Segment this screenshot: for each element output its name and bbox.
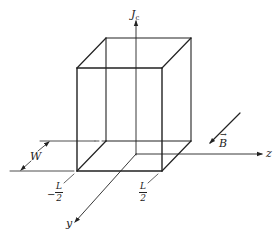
b-field-label: → B [219, 138, 227, 149]
z-axis-label: z [266, 148, 272, 159]
diagram-canvas: Jc z y → B W − L 2 L 2 [0, 0, 279, 233]
neg-l-over-2: L 2 [55, 182, 63, 203]
box-depth-edges [77, 38, 191, 171]
box-front-face [77, 68, 162, 171]
width-label: W [30, 151, 41, 162]
neg-l2-numerator: L [55, 182, 63, 193]
jc-axis-label: Jc [131, 9, 139, 22]
neg-l2-leader [64, 174, 74, 183]
pos-l2-leader [148, 174, 158, 183]
pos-l2-numerator: L [139, 182, 147, 193]
box-back-face [106, 38, 191, 141]
y-axis-label: y [66, 218, 72, 229]
jc-subscript: c [135, 14, 139, 22]
vector-arrow-icon: → [220, 131, 227, 139]
pos-l-over-2: L 2 [139, 182, 147, 203]
neg-l2-denominator: 2 [55, 193, 63, 203]
pos-l2-denominator: 2 [139, 193, 147, 203]
